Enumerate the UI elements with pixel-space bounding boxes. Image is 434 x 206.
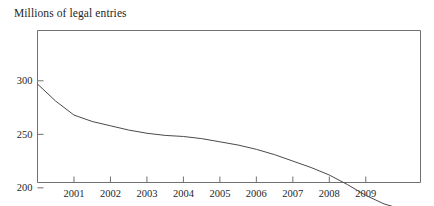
chart-container: Millions of legal entries 150200250300 2…	[0, 0, 434, 206]
plot-frame	[38, 31, 421, 183]
x-axis-tick-label: 2007	[282, 188, 303, 199]
x-axis-tick-label: 2003	[136, 188, 157, 199]
x-axis-tick-label: 2004	[173, 188, 195, 199]
y-axis-ticks: 150200250300	[17, 75, 44, 206]
y-axis-tick-label: 200	[17, 182, 33, 193]
x-axis-ticks: 200120022003200420052006200720082009	[63, 177, 376, 199]
x-axis-tick-label: 2009	[355, 188, 376, 199]
x-axis-tick-label: 2008	[319, 188, 340, 199]
y-axis-tick-label: 300	[17, 75, 33, 86]
x-axis-tick-label: 2005	[209, 188, 230, 199]
y-axis-tick-label: 250	[17, 129, 33, 140]
x-axis-tick-label: 2001	[63, 188, 84, 199]
x-axis-tick-label: 2002	[100, 188, 121, 199]
line-chart-plot: 150200250300 200120022003200420052006200…	[0, 0, 434, 206]
plot-frame-border	[38, 31, 421, 183]
x-axis-tick-label: 2006	[246, 188, 267, 199]
